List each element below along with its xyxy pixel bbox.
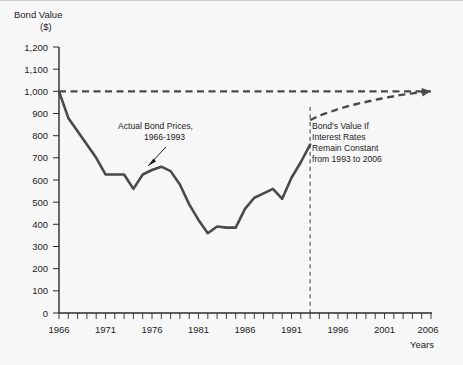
- chart-svg: Bond Value ($) 1,200 1,100 1,000 900 8: [0, 0, 463, 365]
- y-tick-label: 600: [32, 175, 48, 186]
- x-tick-label: 1996: [327, 324, 348, 335]
- x-tick-label: 2006: [417, 324, 438, 335]
- x-axis-minor-ticks: [59, 313, 431, 319]
- annotation-line: Interest Rates: [312, 132, 366, 142]
- y-tick-label: 0: [43, 308, 48, 319]
- y-tick-label: 900: [32, 108, 48, 119]
- y-tick-label: 800: [32, 130, 48, 141]
- annotation-line: Remain Constant: [312, 143, 379, 153]
- x-axis-labels: 1966 1971 1976 1981 1986 1991 1996 2001 …: [48, 324, 438, 335]
- annotation-line: from 1993 to 2006: [312, 154, 382, 164]
- y-axis-ticks: [53, 47, 59, 313]
- bond-value-chart: Bond Value ($) 1,200 1,100 1,000 900 8: [0, 0, 463, 365]
- y-tick-label: 1,200: [24, 42, 48, 53]
- x-tick-label: 1971: [95, 324, 116, 335]
- projected-bond-value-line: [310, 91, 431, 120]
- y-tick-label: 700: [32, 152, 48, 163]
- actual-prices-annotation: Actual Bond Prices, 1966-1993: [118, 121, 193, 166]
- y-tick-label: 1,000: [24, 86, 48, 97]
- x-tick-label: 2001: [374, 324, 395, 335]
- x-tick-label: 1976: [141, 324, 162, 335]
- annotation-arrowhead: [148, 159, 156, 167]
- annotation-line: Bond's Value If: [312, 121, 370, 131]
- y-tick-label: 300: [32, 241, 48, 252]
- annotation-line: 1966-1993: [144, 132, 185, 142]
- y-tick-label: 100: [32, 285, 48, 296]
- projection-annotation: Bond's Value If Interest Rates Remain Co…: [312, 121, 382, 164]
- x-axis-title: Years: [410, 339, 434, 350]
- x-tick-label: 1991: [281, 324, 302, 335]
- y-tick-label: 500: [32, 197, 48, 208]
- annotation-line: Actual Bond Prices,: [118, 121, 193, 131]
- x-tick-label: 1981: [188, 324, 209, 335]
- y-tick-label: 1,100: [24, 64, 48, 75]
- y-tick-label: 400: [32, 219, 48, 230]
- x-tick-label: 1966: [48, 324, 69, 335]
- y-tick-label: 200: [32, 263, 48, 274]
- y-axis-title-line1: Bond Value: [14, 9, 62, 20]
- x-tick-label: 1986: [234, 324, 255, 335]
- y-axis-labels: 1,200 1,100 1,000 900 800 700 600 500 40…: [24, 42, 48, 319]
- y-axis-title-line2: ($): [40, 21, 52, 32]
- actual-bond-prices-line: [59, 91, 310, 233]
